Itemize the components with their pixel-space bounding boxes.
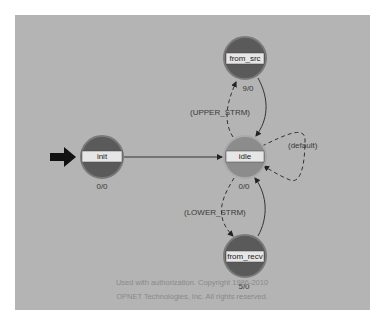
copyright-line-2: OPNET Technologies, Inc. All rights rese… [0, 292, 384, 301]
state-init-label: init [97, 152, 108, 161]
state-init[interactable]: init [81, 136, 123, 178]
copyright-line-1: Used with authorization. Copyright 1986-… [0, 278, 384, 287]
transition-label-upper-strm: (UPPER_STRM) [190, 108, 250, 117]
initial-state-arrow-icon [50, 147, 76, 167]
state-init-exec: 0/0 [96, 182, 108, 191]
state-diagram: (UPPER_STRM) (LOWER_STRM) (default) init… [0, 0, 384, 322]
state-idle-label: idle [239, 152, 252, 161]
transition-from-recv-idle[interactable] [255, 178, 265, 236]
state-from-src-label: from_src [229, 54, 260, 63]
transition-idle-default[interactable] [262, 132, 305, 180]
state-idle-exec: 0/0 [238, 182, 250, 191]
transition-from-src-idle[interactable] [256, 78, 266, 136]
transition-idle-from-recv[interactable] [221, 178, 234, 236]
transition-label-default: (default) [288, 141, 318, 150]
state-idle[interactable]: idle [224, 136, 266, 178]
state-from-recv-label: from_recv [227, 252, 263, 261]
transition-label-lower-strm: (LOWER_STRM) [184, 208, 246, 217]
state-from-recv[interactable]: from_recv [224, 235, 266, 277]
state-from-src[interactable]: from_src [224, 37, 266, 79]
state-from-src-exec: 9/0 [242, 84, 254, 93]
